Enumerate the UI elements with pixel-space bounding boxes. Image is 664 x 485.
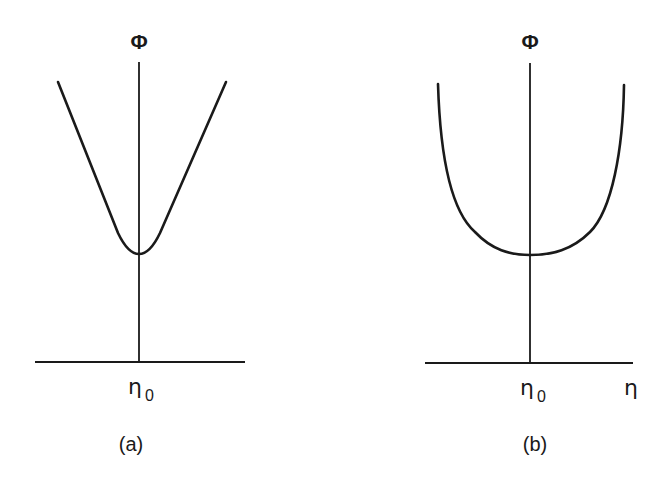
panel-a-y-axis-label: Φ — [130, 30, 147, 54]
subscript: 0 — [145, 387, 154, 404]
panel-a-curve — [58, 82, 226, 254]
panel-b-caption: (b) — [523, 433, 547, 456]
panel-b-y-axis-label: Φ — [521, 30, 538, 54]
panel-b-curve — [438, 84, 624, 255]
panel-b-x-axis-label: η — [624, 375, 638, 400]
diagram-canvas — [0, 0, 664, 485]
panel-a-x-tick-label: η0 — [128, 374, 154, 405]
figure: Φ η0 (a) Φ η0 η (b) — [0, 0, 664, 485]
subscript: 0 — [537, 388, 546, 405]
panel-a — [35, 62, 245, 362]
panel-a-caption: (a) — [119, 433, 143, 456]
eta-symbol: η — [520, 375, 534, 400]
panel-b — [425, 63, 633, 363]
eta-symbol: η — [128, 374, 142, 399]
panel-b-x-tick-label: η0 — [520, 375, 546, 406]
